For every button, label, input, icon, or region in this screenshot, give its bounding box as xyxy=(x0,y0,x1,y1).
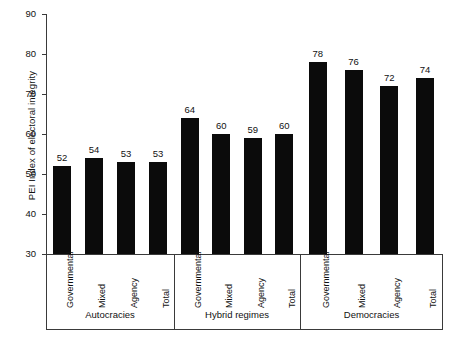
bar xyxy=(149,162,167,254)
bar-value-label: 53 xyxy=(144,149,172,159)
y-tick-mark xyxy=(42,214,46,215)
bar-value-label: 74 xyxy=(411,65,439,75)
group-label: Hybrid regimes xyxy=(174,310,300,320)
bar-value-label: 60 xyxy=(207,121,235,131)
bar xyxy=(85,158,103,254)
bar-value-label: 60 xyxy=(270,121,298,131)
group-separator xyxy=(300,254,301,330)
bar-value-label: 76 xyxy=(340,57,368,67)
y-tick-label: 60 xyxy=(14,129,36,139)
bar-value-label: 72 xyxy=(375,73,403,83)
bar-value-label: 54 xyxy=(80,145,108,155)
y-tick-label: 80 xyxy=(14,49,36,59)
y-tick-mark xyxy=(42,134,46,135)
bar-value-label: 64 xyxy=(176,105,204,115)
bar-value-label: 52 xyxy=(48,153,76,163)
bar xyxy=(53,166,71,254)
y-tick-mark xyxy=(42,14,46,15)
y-tick-mark xyxy=(42,54,46,55)
y-tick-label: 30 xyxy=(14,249,36,259)
bar xyxy=(117,162,135,254)
bar xyxy=(416,78,434,254)
group-separator xyxy=(174,254,175,330)
bar xyxy=(244,138,262,254)
bar xyxy=(212,134,230,254)
group-label: Democracies xyxy=(300,310,443,320)
bar-value-label: 53 xyxy=(112,149,140,159)
bar xyxy=(380,86,398,254)
y-axis-line xyxy=(46,14,47,255)
y-tick-label: 40 xyxy=(14,209,36,219)
bar xyxy=(275,134,293,254)
y-tick-label: 70 xyxy=(14,89,36,99)
bar xyxy=(345,70,363,254)
group-label: Autocracies xyxy=(46,310,174,320)
y-tick-label: 50 xyxy=(14,169,36,179)
y-tick-label: 90 xyxy=(14,9,36,19)
bar-value-label: 59 xyxy=(239,125,267,135)
y-tick-mark xyxy=(42,174,46,175)
y-tick-mark xyxy=(42,94,46,95)
bar-chart: PEI Index of electoral integrity 3040506… xyxy=(0,0,460,340)
bar xyxy=(181,118,199,254)
bar-value-label: 78 xyxy=(304,49,332,59)
bar xyxy=(309,62,327,254)
